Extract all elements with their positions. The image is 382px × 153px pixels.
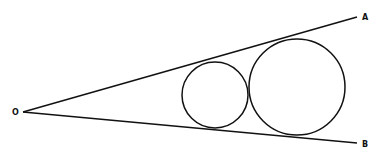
ray-OA — [23, 17, 357, 112]
angle-circles-diagram: O A B — [0, 0, 382, 153]
label-O: O — [12, 108, 19, 117]
large-circle — [249, 39, 345, 135]
label-B: B — [362, 140, 368, 149]
label-A: A — [362, 13, 369, 22]
small-circle — [182, 62, 248, 128]
